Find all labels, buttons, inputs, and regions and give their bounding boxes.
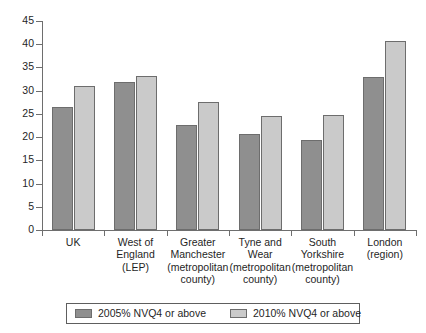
bar-group xyxy=(239,21,282,230)
bar xyxy=(52,107,73,230)
y-axis-tick: 20 xyxy=(0,137,42,138)
bar xyxy=(198,102,219,230)
x-axis-category-label: UK xyxy=(42,236,104,248)
y-axis-tick-label: 15 xyxy=(4,154,34,165)
y-axis-tick: 45 xyxy=(0,21,42,22)
legend-entry-2005: 2005% NVQ4 or above xyxy=(75,304,206,323)
y-axis-tick: 40 xyxy=(0,44,42,45)
x-axis-category-label: Greater Manchester (metropolitan county) xyxy=(167,236,229,286)
legend-swatch-2005-icon xyxy=(75,309,92,318)
legend-label-2010: 2010% NVQ4 or above xyxy=(253,308,361,319)
y-axis-tick: 5 xyxy=(0,207,42,208)
y-axis-tick-label: 45 xyxy=(4,15,34,26)
bar xyxy=(239,134,260,230)
y-axis-tick: 25 xyxy=(0,114,42,115)
bar-group xyxy=(363,21,406,230)
bar-group xyxy=(114,21,157,230)
y-axis-tick-label: 30 xyxy=(4,85,34,96)
x-axis-category-label: London (region) xyxy=(354,236,416,261)
bar xyxy=(114,82,135,230)
y-axis-tick: 10 xyxy=(0,184,42,185)
bar-group xyxy=(301,21,344,230)
bar xyxy=(323,115,344,230)
y-axis-tick-label: 20 xyxy=(4,131,34,142)
x-axis-tick-mark xyxy=(416,230,417,236)
y-axis-tick-label: 10 xyxy=(4,178,34,189)
x-axis-category-label: Tyne and Wear (metropolitan county) xyxy=(229,236,291,286)
plot-area xyxy=(42,21,414,230)
bar xyxy=(136,76,157,230)
bar-chart: 051015202530354045 UKWest of England (LE… xyxy=(0,0,426,333)
y-axis-tick: 35 xyxy=(0,67,42,68)
bar xyxy=(74,86,95,230)
legend-swatch-2010-icon xyxy=(230,309,247,318)
x-axis-category-label: West of England (LEP) xyxy=(104,236,166,273)
x-axis-category-label: South Yorkshire (metropolitan county) xyxy=(291,236,353,286)
y-axis-tick-label: 35 xyxy=(4,61,34,72)
chart-legend: 2005% NVQ4 or above 2010% NVQ4 or above xyxy=(66,303,360,324)
bar xyxy=(385,41,406,230)
bar xyxy=(261,116,282,230)
legend-label-2005: 2005% NVQ4 or above xyxy=(98,308,206,319)
y-axis-tick: 0 xyxy=(0,230,42,231)
bar xyxy=(176,125,197,230)
bar xyxy=(301,140,322,230)
bar-group xyxy=(52,21,95,230)
y-axis-tick-label: 40 xyxy=(4,38,34,49)
bar xyxy=(363,77,384,230)
y-axis-tick: 30 xyxy=(0,91,42,92)
bar-group xyxy=(176,21,219,230)
y-axis-tick-label: 0 xyxy=(4,224,34,235)
y-axis-tick-label: 5 xyxy=(4,201,34,212)
y-axis-tick: 15 xyxy=(0,160,42,161)
legend-entry-2010: 2010% NVQ4 or above xyxy=(230,304,361,323)
y-axis-tick-label: 25 xyxy=(4,108,34,119)
